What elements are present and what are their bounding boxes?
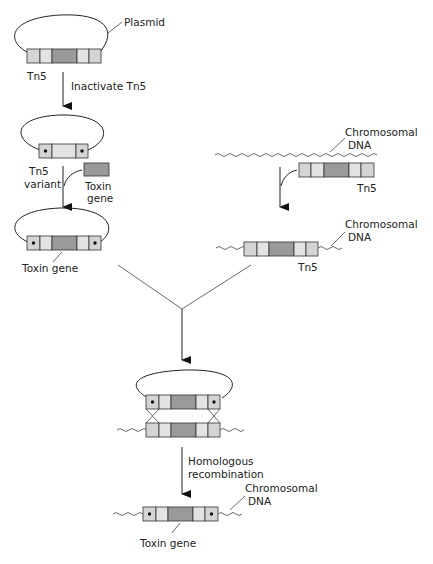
chromosomal-dna-label-3b: DNA (248, 495, 272, 507)
homologous-label-1: Homologous (188, 455, 254, 467)
tn5-label-chrom: Tn5 (297, 261, 318, 273)
recombination-alignment (117, 370, 244, 437)
tn5-variant-label-2: variant (24, 178, 61, 190)
toxin-plasmid (15, 208, 109, 250)
homologous-label-2: recombination (188, 468, 264, 480)
chromosomal-dna-label-1a: Chromosomal (345, 126, 418, 138)
tn5-variant-plasmid (21, 115, 104, 158)
plasmid-label: Plasmid (124, 16, 165, 28)
chromosomal-dna-label-1b: DNA (348, 139, 372, 151)
toxin-gene-label-1: Toxin (84, 180, 112, 192)
chromosomal-dna-wavy-1 (215, 154, 377, 157)
tn5-element-top (27, 49, 101, 63)
tn5-element-chromosomal (244, 242, 318, 256)
converge-line-left (118, 265, 182, 309)
toxin-gene-label-2: gene (87, 192, 113, 204)
tn5-variant-label-1: Tn5 (28, 165, 49, 177)
inactivate-label: Inactivate Tn5 (71, 80, 146, 92)
tn5-toxin-diagram: Plasmid Tn5 Inactivate Tn5 Tn5 variant T… (0, 0, 433, 564)
plasmid-tn5-group: Plasmid Tn5 (15, 15, 165, 82)
toxin-gene-final-label: Toxin gene (139, 537, 196, 549)
tn5-label-top: Tn5 (26, 70, 47, 82)
chromosomal-dna-label-2b: DNA (348, 231, 372, 243)
toxin-gene-fragment (84, 163, 109, 176)
tn5-label-right: Tn5 (356, 182, 377, 194)
chromosomal-dna-label-3a: Chromosomal (245, 482, 318, 494)
chromosomal-dna-label-2a: Chromosomal (345, 218, 418, 230)
tn5-element-free (299, 163, 374, 177)
chromosomal-dna-wavy-2 (216, 247, 246, 250)
plasmid-loop (15, 15, 108, 52)
final-chromosome (113, 507, 242, 521)
converge-line-right (182, 265, 251, 309)
toxin-gene-plasmid-label: Toxin gene (21, 262, 78, 274)
